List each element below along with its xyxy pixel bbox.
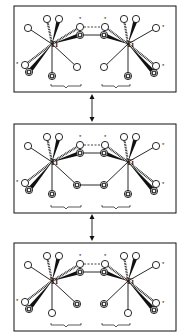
bridging-oxygen-atom	[150, 187, 157, 194]
ligand-atom	[24, 142, 31, 149]
panel-middle: *****TiTi	[14, 124, 176, 213]
bridging-oxygen-atom	[100, 181, 107, 188]
bridging-oxygen-atom	[76, 31, 83, 38]
ti-label: Ti	[126, 277, 134, 286]
ligand-atom	[76, 260, 83, 267]
ligand-atom	[132, 15, 139, 22]
bridging-oxygen-atom	[48, 72, 55, 79]
bridging-oxygen-atom	[73, 181, 80, 188]
bridging-oxygen-atom	[25, 186, 32, 193]
bridging-oxygen-atom	[100, 300, 107, 307]
ligand-atom	[152, 299, 159, 306]
ligand-atom	[21, 61, 28, 68]
bridging-oxygen-atom	[100, 149, 107, 156]
ligand-atom	[152, 62, 159, 69]
ligand-atom	[101, 23, 108, 30]
panel-frame	[14, 243, 176, 331]
ligand-atom	[21, 179, 28, 186]
ligand-atom	[43, 252, 50, 259]
ligand-atom	[48, 309, 55, 316]
bridging-oxygen-atom	[100, 31, 107, 38]
ligand-atom	[24, 261, 31, 268]
ligand-atom	[124, 309, 131, 316]
bridging-oxygen-atom	[150, 306, 157, 313]
ligand-atom	[101, 141, 108, 148]
ligand-atom	[76, 141, 83, 148]
bridging-oxygen-atom	[48, 190, 55, 197]
panel-frame	[14, 124, 176, 213]
ligand-atom	[152, 24, 159, 31]
ligand-atom	[152, 180, 159, 187]
bridging-oxygen-atom	[25, 68, 32, 75]
ligand-atom	[21, 298, 28, 305]
ligand-atom	[152, 142, 159, 149]
bridging-oxygen-atom	[150, 69, 157, 76]
ti-dimer-equilibrium-diagram: *****TiTi*****TiTi*****TiTi	[0, 0, 184, 336]
ti-label: Ti	[50, 40, 58, 49]
bridging-oxygen-atom	[76, 268, 83, 275]
panel-top: *****TiTi	[14, 6, 176, 92]
ligand-atom	[55, 133, 62, 140]
ligand-atom	[120, 252, 127, 259]
equilibrium-arrow	[90, 214, 95, 241]
ligand-atom	[100, 63, 107, 70]
ligand-atom	[76, 23, 83, 30]
bridging-oxygen-atom	[124, 72, 131, 79]
ligand-atom	[43, 15, 50, 22]
ligand-atom	[152, 261, 159, 268]
ligand-atom	[132, 252, 139, 259]
bridging-oxygen-atom	[76, 149, 83, 156]
panel-bottom: *****TiTi	[14, 243, 176, 331]
panel-frame	[14, 6, 176, 92]
bridging-oxygen-atom	[73, 300, 80, 307]
bridging-oxygen-atom	[25, 305, 32, 312]
ligand-atom	[101, 260, 108, 267]
ti-label: Ti	[126, 40, 134, 49]
ligand-atom	[73, 63, 80, 70]
ti-label: Ti	[50, 158, 58, 167]
ligand-atom	[43, 133, 50, 140]
ligand-atom	[120, 15, 127, 22]
ligand-atom	[132, 133, 139, 140]
ti-label: Ti	[50, 277, 58, 286]
bridging-oxygen-atom	[124, 190, 131, 197]
ligand-atom	[120, 133, 127, 140]
equilibrium-arrow	[90, 94, 95, 122]
ti-label: Ti	[126, 158, 134, 167]
bridging-oxygen-atom	[100, 268, 107, 275]
ligand-atom	[55, 252, 62, 259]
ligand-atom	[55, 15, 62, 22]
ligand-atom	[24, 24, 31, 31]
